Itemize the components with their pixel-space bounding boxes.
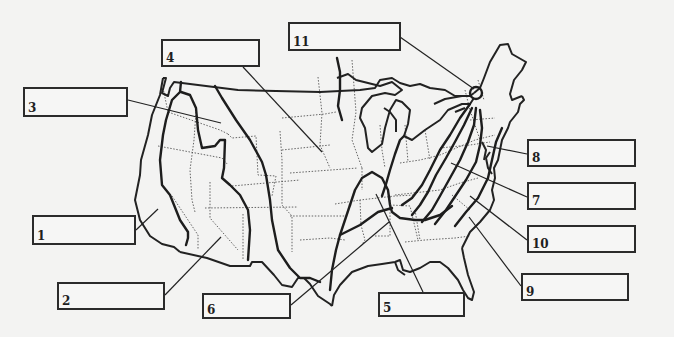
label-box-8[interactable]: 8 — [527, 139, 636, 167]
label-box-11[interactable]: 11 — [288, 22, 401, 51]
label-number-11: 11 — [293, 36, 310, 48]
label-number-5: 5 — [383, 302, 391, 314]
label-number-10: 10 — [532, 238, 549, 250]
label-number-7: 7 — [532, 195, 540, 207]
label-box-10[interactable]: 10 — [527, 225, 636, 253]
label-box-4[interactable]: 4 — [161, 39, 260, 67]
label-number-1: 1 — [37, 230, 45, 242]
label-box-5[interactable]: 5 — [378, 292, 465, 317]
label-number-4: 4 — [166, 52, 174, 64]
label-number-8: 8 — [532, 152, 540, 164]
label-box-7[interactable]: 7 — [527, 182, 636, 210]
label-box-2[interactable]: 2 — [57, 282, 165, 310]
label-number-3: 3 — [28, 102, 36, 114]
label-box-6[interactable]: 6 — [202, 293, 291, 319]
leader-lines — [128, 37, 527, 305]
label-box-1[interactable]: 1 — [32, 215, 136, 245]
label-number-6: 6 — [207, 304, 215, 316]
physiographic-map-diagram: 1 2 3 4 5 6 7 8 9 10 11 — [0, 0, 674, 337]
label-box-9[interactable]: 9 — [521, 273, 629, 301]
label-box-3[interactable]: 3 — [23, 87, 128, 117]
label-number-9: 9 — [526, 286, 534, 298]
label-number-2: 2 — [62, 295, 70, 307]
national-outline — [135, 44, 526, 306]
